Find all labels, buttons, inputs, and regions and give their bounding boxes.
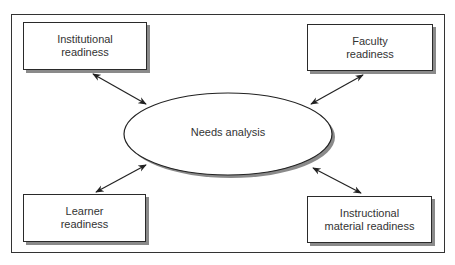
needs-analysis-label: Needs analysis xyxy=(124,126,332,138)
box-line-1: Faculty xyxy=(346,35,394,48)
learner-readiness-box: Learner readiness xyxy=(23,194,146,242)
box-line-2: material readiness xyxy=(325,220,415,233)
faculty-readiness-box: Faculty readiness xyxy=(307,24,433,71)
box-line-1: Institutional xyxy=(57,33,113,46)
box-line-1: Instructional xyxy=(325,207,415,220)
instructional-material-readiness-box: Instructional material readiness xyxy=(307,196,432,243)
arrow-instructional xyxy=(313,168,361,193)
arrow-learner xyxy=(96,165,146,192)
box-line-1: Learner xyxy=(61,205,109,218)
box-line-2: readiness xyxy=(57,46,113,59)
box-line-2: readiness xyxy=(346,48,394,61)
arrow-institutional xyxy=(93,74,146,104)
arrow-faculty xyxy=(311,75,363,104)
institutional-readiness-box: Institutional readiness xyxy=(23,22,147,70)
box-line-2: readiness xyxy=(61,218,109,231)
